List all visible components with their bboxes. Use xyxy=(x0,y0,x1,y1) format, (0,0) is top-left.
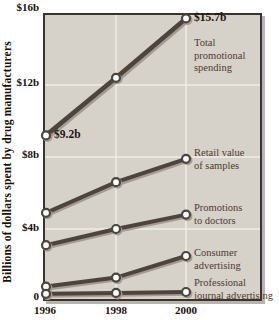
value-annotation: $15.7b xyxy=(194,11,226,24)
data-point xyxy=(182,211,190,219)
data-point xyxy=(182,14,190,22)
data-point xyxy=(42,241,50,249)
y-tick-label: $4b xyxy=(0,221,39,234)
data-point xyxy=(42,131,50,139)
series-label-line: of samples xyxy=(194,159,239,172)
x-tick-label: 2000 xyxy=(166,304,206,317)
y-tick-label: 0 xyxy=(0,290,39,303)
series-label-line: Retail value xyxy=(194,146,244,159)
data-point xyxy=(42,290,50,298)
data-point xyxy=(182,252,190,260)
y-tick-label: $8b xyxy=(0,148,39,161)
x-tick-label: 1996 xyxy=(25,304,65,317)
data-point xyxy=(112,74,120,82)
value-annotation: $9.2b xyxy=(54,128,81,141)
series-label-line: Total xyxy=(194,36,215,49)
data-point xyxy=(182,288,190,296)
series-label-line: to doctors xyxy=(194,214,236,227)
data-point xyxy=(112,289,120,297)
x-tick-label: 1998 xyxy=(96,304,136,317)
series-label-line: Promotions xyxy=(194,201,242,214)
series-label-line: promotional xyxy=(194,49,245,62)
data-point xyxy=(112,178,120,186)
drug-promotion-spending-chart: Billions of dollars spent by drug manufa… xyxy=(0,0,279,320)
series-label-line: advertising xyxy=(194,259,241,272)
series-label-line: Professional xyxy=(194,276,246,289)
series-label-line: spending xyxy=(194,61,232,74)
data-point xyxy=(182,155,190,163)
series-label-line: journal advertising xyxy=(194,289,273,302)
series-label-line: Consumer xyxy=(194,246,237,259)
data-point xyxy=(42,209,50,217)
data-point xyxy=(112,225,120,233)
y-axis-title: Billions of dollars spent by drug manufa… xyxy=(1,17,17,307)
data-point xyxy=(112,274,120,282)
y-tick-label: $16b xyxy=(0,1,39,14)
y-tick-label: $12b xyxy=(0,76,39,89)
